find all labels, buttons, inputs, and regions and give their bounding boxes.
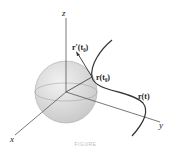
z-axis-label: z [61, 8, 66, 18]
space-curve [92, 40, 146, 136]
point-label: r(t₀) [96, 73, 110, 82]
figure-caption: FIGURE [0, 141, 171, 147]
tangent-label: r′(t₀) [72, 43, 89, 52]
y-axis-label: y [158, 120, 163, 130]
curve-label: r(t) [138, 92, 150, 101]
diagram-canvas: z y x r′(t₀) r(t₀) r(t) [0, 0, 171, 154]
